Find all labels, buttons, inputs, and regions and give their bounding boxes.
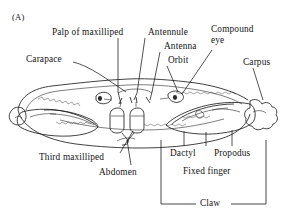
leader-orbit	[167, 66, 178, 92]
head-region	[96, 89, 183, 104]
leader-antennule	[134, 38, 145, 100]
label-propodus: Propodus	[214, 148, 250, 159]
leader-abdomen	[127, 140, 131, 165]
label-palp-of-maxilliped: Palp of maxilliped	[52, 27, 123, 38]
label-antenna: Antenna	[164, 41, 197, 52]
label-fixed-finger: Fixed finger	[183, 166, 231, 177]
label-dactyl: Dactyl	[170, 148, 196, 159]
label-antennule: Antennule	[148, 27, 188, 38]
label-abdomen: Abdomen	[99, 167, 137, 178]
compound-eye-right	[173, 95, 177, 100]
label-carapace: Carapace	[26, 54, 62, 65]
leader-palp-of-maxilliped	[118, 38, 121, 104]
label-third-maxilliped: Third maxilliped	[39, 152, 104, 163]
right-cheliped	[144, 100, 277, 135]
leader-antenna	[150, 52, 160, 100]
label-compound-eye: Compound eye	[211, 24, 254, 45]
label-orbit: Orbit	[168, 55, 188, 66]
figure-container: (A) Palp of maxilliped Antennule Antenna…	[0, 0, 294, 224]
left-cheliped	[9, 107, 98, 136]
panel-letter: (A)	[12, 12, 25, 23]
leader-carpus	[253, 68, 263, 100]
compound-eye-left	[98, 96, 102, 101]
label-claw: Claw	[200, 198, 220, 209]
leader-third-maxilliped	[120, 131, 133, 153]
label-carpus: Carpus	[243, 57, 270, 68]
mouthparts	[110, 102, 144, 145]
